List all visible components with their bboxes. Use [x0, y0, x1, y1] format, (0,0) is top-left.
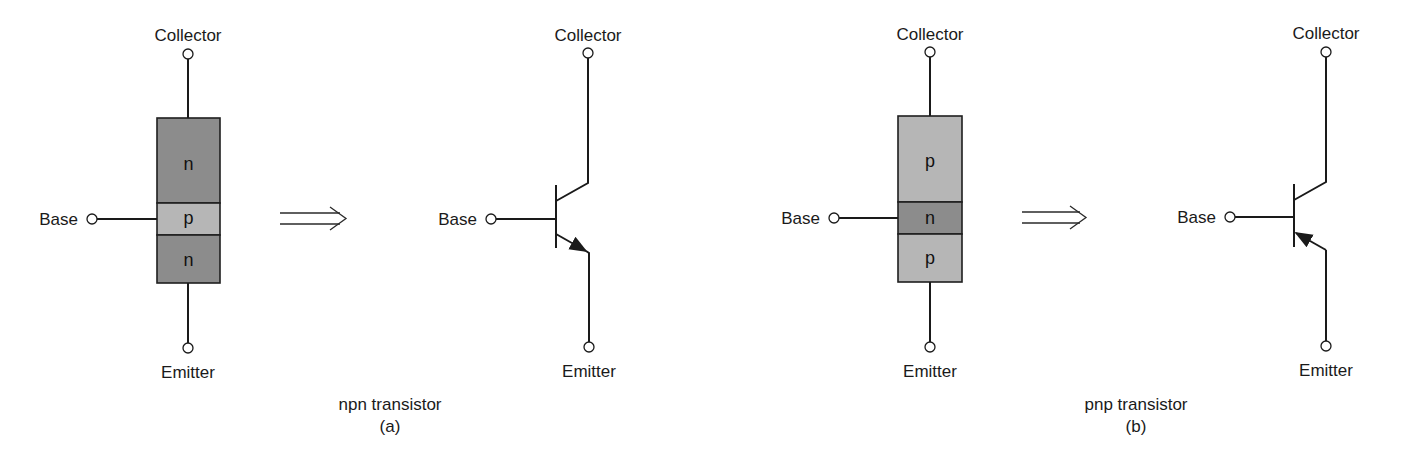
- base-terminal-icon: [829, 213, 839, 223]
- collector-terminal-icon: [183, 49, 193, 59]
- emitter-terminal-icon: [584, 342, 594, 352]
- emitter-terminal-icon: [1321, 341, 1331, 351]
- pnp-block: Collector p n p Base Emitter: [781, 25, 964, 381]
- npn-symbol: Collector Base Emitter: [438, 26, 622, 381]
- npn-region-label-middle: p: [183, 208, 193, 228]
- npn-caption: npn transistor: [339, 395, 442, 414]
- pnp-symbol: Collector Base Emitter: [1177, 24, 1360, 380]
- emitter-lead: [586, 251, 589, 342]
- collector-terminal-icon: [925, 47, 935, 57]
- emitter-arrow-out-icon: [556, 234, 586, 251]
- base-terminal-icon: [87, 214, 97, 224]
- collector-terminal-icon: [1321, 47, 1331, 57]
- pnp-region-label-middle: n: [925, 208, 935, 228]
- emitter-terminal-icon: [183, 343, 193, 353]
- emitter-arrow-in-icon: [1296, 233, 1326, 250]
- npn-region-label-bottom: n: [183, 250, 193, 270]
- pnp-symbol-emitter-label: Emitter: [1299, 361, 1353, 380]
- pnp-symbol-collector-label: Collector: [1292, 24, 1359, 43]
- collector-terminal-icon: [583, 48, 593, 58]
- npn-sublabel: (a): [380, 417, 401, 436]
- npn-symbol-emitter-label: Emitter: [562, 362, 616, 381]
- base-terminal-icon: [1225, 212, 1235, 222]
- npn-symbol-collector-label: Collector: [554, 26, 621, 45]
- pnp-caption: pnp transistor: [1085, 395, 1188, 414]
- pnp-block-emitter-label: Emitter: [903, 362, 957, 381]
- transistor-diagram: Collector n p n Base Emitter Collector B…: [0, 0, 1406, 464]
- pnp-symbol-base-label: Base: [1177, 208, 1216, 227]
- pnp-block-base-label: Base: [781, 209, 820, 228]
- npn-block-base-label: Base: [39, 210, 78, 229]
- npn-block: Collector n p n Base Emitter: [39, 26, 222, 382]
- double-arrow-right-icon: [280, 207, 346, 230]
- pnp-region-label-bottom: p: [925, 248, 935, 268]
- npn-symbol-base-label: Base: [438, 210, 477, 229]
- emitter-terminal-icon: [925, 342, 935, 352]
- collector-lead: [1294, 57, 1326, 200]
- base-terminal-icon: [486, 214, 496, 224]
- npn-block-collector-label: Collector: [154, 26, 221, 45]
- pnp-block-collector-label: Collector: [896, 25, 963, 44]
- npn-region-label-top: n: [183, 154, 193, 174]
- pnp-sublabel: (b): [1126, 417, 1147, 436]
- pnp-region-label-top: p: [925, 151, 935, 171]
- double-arrow-right-icon: [1022, 206, 1086, 229]
- collector-lead: [556, 58, 588, 201]
- npn-block-emitter-label: Emitter: [161, 363, 215, 382]
